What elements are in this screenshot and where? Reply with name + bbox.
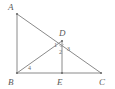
angle-label-3: 3 (67, 46, 70, 52)
vertex-label-b: B (8, 77, 14, 87)
angle-label-4: 4 (28, 65, 31, 71)
geometry-canvas: A B C D E 1 2 3 4 (0, 0, 115, 89)
vertex-dot-b (16, 72, 18, 74)
vertex-dot-a (16, 13, 18, 15)
angle-label-2: 2 (59, 49, 62, 55)
angle-label-1: 1 (54, 42, 57, 48)
vertex-label-c: C (99, 77, 106, 87)
vertex-dot-c (100, 72, 102, 74)
vertex-dot-d (61, 40, 63, 42)
vertex-label-e: E (56, 77, 63, 87)
vertex-dot-e (61, 72, 63, 74)
vertex-label-a: A (7, 2, 14, 12)
geometry-figure: A B C D E 1 2 3 4 (0, 0, 115, 89)
vertex-label-d: D (58, 28, 66, 38)
